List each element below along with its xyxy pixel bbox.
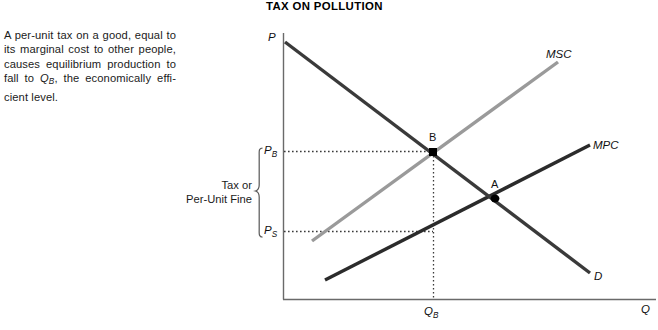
tax-bracket-label: Tax or Per-Unit Fine [168,178,252,206]
curve-mpc [325,145,590,280]
curve-label-d: D [594,270,602,282]
point-label-b: B [429,131,436,143]
x-tick-label-qb: QB [424,305,438,320]
curve-label-msc: MSC [546,48,572,60]
curve-demand [285,42,590,273]
point-marker-a [491,195,500,203]
tax-bracket-label-line1: Tax or [222,179,252,191]
chart-curves [285,42,590,280]
figure-root: A per-unit tax on a good, equal to its m… [0,0,658,330]
point-label-a: A [491,178,498,190]
point-marker-b [429,148,437,156]
tax-bracket-label-line2: Per-Unit Fine [186,193,252,205]
chart-axes [283,33,656,300]
curve-label-mpc: MPC [593,139,619,151]
tax-bracket [255,148,262,237]
guide-lines [284,152,434,300]
axis-label-p: P [268,31,276,43]
y-tick-label-pb: PB [264,144,277,159]
axis-label-q: Q [641,303,650,315]
y-tick-label-ps: PS [264,224,277,239]
